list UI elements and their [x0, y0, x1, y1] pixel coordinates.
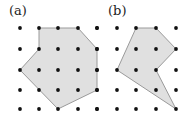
- grid-dot: [115, 107, 119, 111]
- grid-dot: [56, 88, 60, 92]
- grid-dot: [174, 68, 178, 72]
- grid-dot: [115, 26, 119, 30]
- grid-dot: [37, 88, 41, 92]
- grid-dot: [115, 68, 119, 72]
- grid-dot: [76, 68, 80, 72]
- grid-dot: [76, 107, 80, 111]
- grid-dot: [56, 68, 60, 72]
- grid-dot: [95, 26, 99, 30]
- grid-dot: [37, 107, 41, 111]
- dot-grid-polygons: [0, 0, 188, 115]
- grid-dot: [95, 68, 99, 72]
- grid-dot: [95, 47, 99, 51]
- grid-dot: [174, 107, 178, 111]
- polygon-b: [117, 28, 176, 109]
- grid-dot: [115, 47, 119, 51]
- grid-dot: [18, 68, 22, 72]
- grid-dot: [154, 68, 158, 72]
- grid-dot: [134, 26, 138, 30]
- grid-dot: [56, 47, 60, 51]
- grid-dot: [154, 47, 158, 51]
- grid-dot: [76, 47, 80, 51]
- grid-dot: [95, 88, 99, 92]
- grid-dot: [18, 26, 22, 30]
- grid-dot: [154, 88, 158, 92]
- grid-dot: [18, 47, 22, 51]
- grid-dot: [76, 88, 80, 92]
- grid-dot: [56, 26, 60, 30]
- grid-dot: [76, 26, 80, 30]
- grid-dot: [37, 47, 41, 51]
- grid-dot: [37, 26, 41, 30]
- grid-dot: [154, 26, 158, 30]
- grid-dot: [174, 88, 178, 92]
- grid-dot: [95, 107, 99, 111]
- grid-dot: [18, 107, 22, 111]
- grid-dot: [174, 26, 178, 30]
- grid-dot: [134, 107, 138, 111]
- grid-dot: [115, 88, 119, 92]
- grid-dot: [134, 88, 138, 92]
- grid-dot: [56, 107, 60, 111]
- grid-dot: [18, 88, 22, 92]
- grid-dot: [154, 107, 158, 111]
- grid-dot: [174, 47, 178, 51]
- grid-dot: [37, 68, 41, 72]
- grid-dot: [134, 47, 138, 51]
- grid-dot: [134, 68, 138, 72]
